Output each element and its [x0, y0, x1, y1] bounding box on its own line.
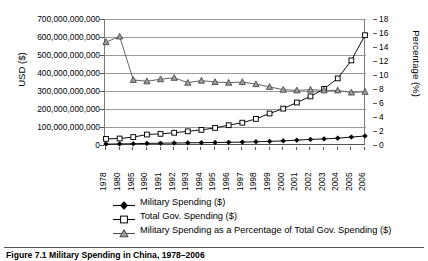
- x-axis-tick-label: 1990: [140, 172, 149, 191]
- y-axis-right-tickmark: [373, 47, 377, 48]
- y-axis-right-tickmark: [373, 103, 377, 104]
- y-axis-right-title: Percentage (%): [411, 28, 422, 100]
- x-axis-tickmark: [146, 147, 147, 150]
- y-axis-right-tickmark: [373, 131, 377, 132]
- x-axis-tickmark: [160, 147, 161, 150]
- x-axis-tickmark: [241, 147, 242, 150]
- y-axis-right-tick-label: 10: [379, 71, 388, 80]
- y-axis-left-tick-label: 500,000,000,000: [37, 51, 100, 60]
- y-axis-right-tick-label: 8: [379, 85, 384, 94]
- y-axis-right-tickmark: [373, 19, 377, 20]
- gridlines: [105, 20, 366, 128]
- x-axis-tick-label: 1991: [154, 172, 163, 191]
- plot-area: [104, 19, 365, 145]
- y-axis-right-tick-label: 18: [379, 15, 388, 24]
- x-axis-tick-label: 1993: [181, 172, 190, 191]
- y-axis-right-tick-label: 2: [379, 127, 384, 136]
- x-axis-tick-label: 1997: [236, 172, 245, 191]
- x-axis-tick-label: 2004: [331, 172, 340, 191]
- x-axis-tickmark: [187, 147, 188, 150]
- figure-military-spending-china: 0100,000,000,000200,000,000,000300,000,0…: [0, 0, 428, 261]
- y-axis-right-tickmark: [373, 89, 377, 90]
- y-axis-right-tick-label: 14: [379, 43, 388, 52]
- x-axis-tick-label: 2000: [277, 172, 286, 191]
- x-axis-tickmark: [119, 147, 120, 150]
- legend-item-total-gov-spending: Total Gov. Spending ($): [112, 210, 237, 223]
- open-square-icon: [112, 211, 136, 222]
- y-axis-left-tick-label: 100,000,000,000: [37, 123, 100, 132]
- x-axis-tick-label: 2001: [290, 172, 299, 191]
- x-axis-tickmark: [269, 147, 270, 150]
- y-axis-right-tickmark: [373, 117, 377, 118]
- x-axis-tickmark: [337, 147, 338, 150]
- y-axis-left-title: USD ($): [16, 40, 27, 100]
- y-axis-left-tick-label: 300,000,000,000: [37, 87, 100, 96]
- x-axis-tick-label: 1992: [168, 172, 177, 191]
- x-axis-tick-label: 1980: [113, 172, 122, 191]
- legend-item-military-spending: Military Spending ($): [112, 196, 225, 209]
- y-axis-right-tick-label: 12: [379, 57, 388, 66]
- legend-label-total-gov-spending: Total Gov. Spending ($): [140, 211, 237, 222]
- x-axis-tick-label: 2002: [304, 172, 313, 191]
- x-axis-tickmark: [132, 147, 133, 150]
- figure-caption: Figure 7.1 Military Spending in China, 1…: [6, 250, 426, 260]
- y-axis-right-tick-label: 0: [379, 141, 384, 150]
- x-axis-tickmark: [255, 147, 256, 150]
- x-axis-tick-label: 1999: [263, 172, 272, 191]
- y-axis-left-tick-label: 700,000,000,000: [37, 15, 100, 24]
- y-axis-left-tickmark: [100, 145, 104, 146]
- chart-area: 0100,000,000,000200,000,000,000300,000,0…: [0, 0, 428, 196]
- x-axis-tick-label: 1995: [208, 172, 217, 191]
- filled-triangle-icon: [112, 225, 136, 236]
- y-axis-right-tickmark: [373, 61, 377, 62]
- x-axis-tick-label: 1996: [222, 172, 231, 191]
- x-axis-tickmark: [309, 147, 310, 150]
- data-series: [103, 33, 368, 147]
- series-canvas: [105, 19, 366, 145]
- chart-legend: Military Spending ($) Total Gov. Spendin…: [0, 196, 428, 240]
- x-axis-tick-label: 2003: [318, 172, 327, 191]
- x-axis-tickmark: [228, 147, 229, 150]
- y-axis-left-tick-label: 600,000,000,000: [37, 33, 100, 42]
- y-axis-right-tick-label: 16: [379, 29, 388, 38]
- y-axis-right-tickmark: [373, 33, 377, 34]
- x-axis-tick-label: 1998: [249, 172, 258, 191]
- x-axis-tickmark: [364, 147, 365, 150]
- legend-item-military-percentage: Military Spending as a Percentage of Tot…: [112, 224, 391, 237]
- x-axis-tickmark: [173, 147, 174, 150]
- x-axis-tick-label: 2006: [358, 172, 367, 191]
- x-axis-ticks: 1978198019851990199119921993199419951996…: [104, 147, 365, 193]
- x-axis-tick-label: 1985: [127, 172, 136, 191]
- caption-divider: [4, 247, 424, 248]
- y-axis-left-tick-label: 200,000,000,000: [37, 105, 100, 114]
- y-axis-left-tick-label: 400,000,000,000: [37, 69, 100, 78]
- y-axis-right-tickmark: [373, 145, 377, 146]
- x-axis-tickmark: [214, 147, 215, 150]
- x-axis-tickmark: [105, 147, 106, 150]
- legend-label-military-spending: Military Spending ($): [140, 197, 225, 208]
- legend-label-military-percentage: Military Spending as a Percentage of Tot…: [140, 225, 391, 236]
- x-axis-tick-label: 1994: [195, 172, 204, 191]
- y-axis-right-tick-label: 4: [379, 113, 384, 122]
- x-axis-tick-label: 1978: [99, 172, 108, 191]
- x-axis-tick-label: 2005: [345, 172, 354, 191]
- x-axis-tickmark: [323, 147, 324, 150]
- x-axis-tickmark: [200, 147, 201, 150]
- filled-diamond-icon: [112, 197, 136, 208]
- y-axis-right-tickmark: [373, 75, 377, 76]
- y-axis-right-tick-label: 6: [379, 99, 384, 108]
- x-axis-tickmark: [282, 147, 283, 150]
- x-axis-tickmark: [296, 147, 297, 150]
- x-axis-tickmark: [350, 147, 351, 150]
- y-axis-right-ticks: 024681012141618: [371, 19, 397, 145]
